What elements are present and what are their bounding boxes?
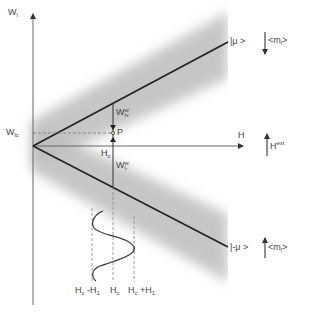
upper-level-line <box>33 42 228 146</box>
tick-hc-minus-h1: Hc -H1 <box>75 286 100 296</box>
level-crossing-diagram <box>0 0 311 316</box>
y-axis-label: Wl <box>8 8 18 18</box>
w-lc-label: Wlc <box>6 128 19 138</box>
upper-state-ket: |μ > <box>230 37 245 46</box>
p-arrow-up-icon <box>110 137 116 142</box>
lower-moment-label: <ml> <box>268 243 287 253</box>
tick-hc-plus-h1: Hc +H1 <box>128 286 155 296</box>
upper-moment-label: <ml> <box>268 36 287 46</box>
lower-band <box>33 124 228 282</box>
x-axis-label: H <box>238 131 245 140</box>
lower-level-line <box>33 146 228 247</box>
w-minus-label: Wwl- <box>116 161 129 171</box>
p-label: P <box>117 128 123 137</box>
tick-hc: Hc <box>110 286 120 296</box>
h-c-label: Hc <box>101 149 111 159</box>
lower-state-ket: |-μ > <box>230 243 248 252</box>
field-label: Hext <box>270 140 285 151</box>
w-plus-label: Wwl+ <box>116 108 129 118</box>
point-p <box>112 132 115 135</box>
